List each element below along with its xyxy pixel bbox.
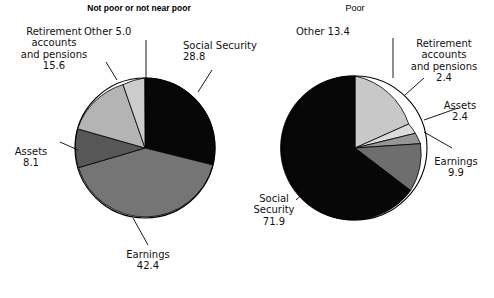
leader-left-earnings — [133, 218, 148, 245]
label-left-earnings: Earnings 42.4 — [103, 249, 193, 272]
leader-left-retirement — [106, 62, 117, 80]
label-left-assets: Assets 8.1 — [2, 146, 60, 169]
label-left-other: Other 5.0 — [84, 26, 162, 37]
label-left-social-security: Social Security 28.8 — [183, 40, 275, 63]
leader-right-earnings — [424, 132, 452, 148]
label-right-earnings: Earnings 9.9 — [424, 156, 488, 179]
panel-title-poor: Poor — [300, 3, 410, 13]
pie-left — [75, 78, 215, 218]
label-right-assets: Assets 2.4 — [432, 100, 488, 123]
figure-canvas: Not poor or not near poor Poor Retiremen… — [0, 0, 494, 298]
panel-title-not-poor: Not poor or not near poor — [44, 3, 234, 13]
label-right-retirement: Retirement accounts and pensions 2.4 — [398, 38, 490, 84]
label-right-other: Other 13.4 — [296, 26, 378, 37]
leader-left-social-security — [198, 70, 212, 92]
label-right-social-security: Social Security 71.9 — [240, 193, 308, 227]
